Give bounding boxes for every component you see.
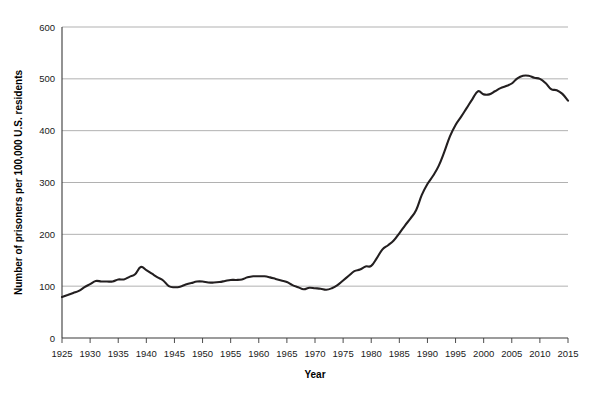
y-axis-title: Number of prisoners per 100,000 U.S. res…	[13, 70, 24, 296]
y-tick-label-500: 500	[39, 73, 55, 84]
y-tick-label-200: 200	[39, 229, 55, 240]
x-tick-label-1925: 1925	[51, 348, 72, 359]
y-tick-label-600: 600	[39, 22, 55, 33]
x-tick-label-1950: 1950	[192, 348, 213, 359]
y-tick-label-0: 0	[50, 333, 55, 344]
x-tick-label-1980: 1980	[361, 348, 382, 359]
prison-rate-line-chart: 1925193019351940194519501955196019651970…	[0, 0, 589, 399]
x-tick-label-1940: 1940	[136, 348, 157, 359]
y-tick-label-300: 300	[39, 177, 55, 188]
y-tick-label-400: 400	[39, 125, 55, 136]
x-tick-label-2000: 2000	[473, 348, 494, 359]
x-tick-label-1975: 1975	[333, 348, 354, 359]
x-tick-label-2010: 2010	[529, 348, 550, 359]
chart-canvas: 1925193019351940194519501955196019651970…	[0, 0, 589, 399]
x-tick-label-1985: 1985	[389, 348, 410, 359]
x-tick-label-2015: 2015	[557, 348, 578, 359]
y-tick-label-100: 100	[39, 281, 55, 292]
chart-background	[0, 0, 589, 399]
x-tick-label-1970: 1970	[304, 348, 325, 359]
x-tick-label-1995: 1995	[445, 348, 466, 359]
x-tick-label-2005: 2005	[501, 348, 522, 359]
x-tick-label-1930: 1930	[80, 348, 101, 359]
x-tick-label-1945: 1945	[164, 348, 185, 359]
x-tick-label-1965: 1965	[276, 348, 297, 359]
x-axis-title: Year	[304, 369, 325, 380]
x-tick-label-1955: 1955	[220, 348, 241, 359]
x-tick-label-1935: 1935	[108, 348, 129, 359]
x-tick-label-1990: 1990	[417, 348, 438, 359]
x-tick-label-1960: 1960	[248, 348, 269, 359]
